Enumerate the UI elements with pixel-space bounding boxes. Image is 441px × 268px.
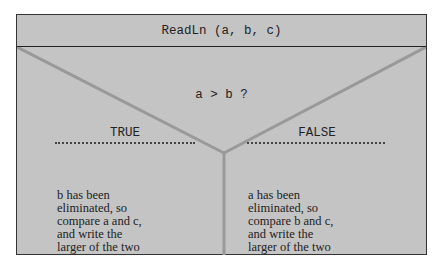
true-branch-label: TRUE	[55, 126, 195, 140]
text-line: larger of the two	[57, 241, 142, 254]
readln-statement: ReadLn (a, b, c)	[17, 15, 426, 47]
decision-condition: a > b ?	[17, 88, 426, 102]
text-line: larger of the two	[248, 241, 333, 254]
nassi-shneiderman-diagram: ReadLn (a, b, c) a > b ? TRUE FALSE b ha…	[16, 14, 427, 255]
false-dotted-rule	[247, 142, 385, 147]
false-branch-text: a has been eliminated, so compare b and …	[248, 189, 333, 254]
false-branch-label: FALSE	[247, 126, 387, 140]
true-dotted-rule	[55, 142, 195, 147]
true-branch-text: b has been eliminated, so compare a and …	[57, 189, 142, 254]
